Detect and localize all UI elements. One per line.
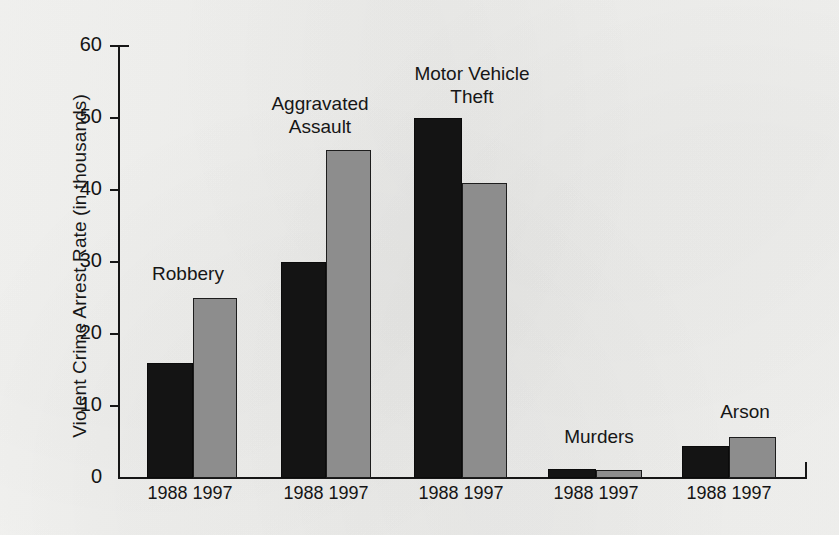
x-tick-labels-arson: 1988 1997 xyxy=(661,483,797,504)
bar-robbery-1997 xyxy=(193,298,237,478)
group-label-motor-vehicle-theft: Motor Vehicle Theft xyxy=(384,62,560,108)
bar-murders-1988 xyxy=(548,469,596,478)
bar-arson-1997 xyxy=(729,437,776,478)
bar-robbery-1988 xyxy=(147,363,193,478)
bar-chart: Violent Crime Arrest Rate (in thousands)… xyxy=(0,0,839,535)
y-tick-label-0: 0 xyxy=(56,465,102,488)
bar-motor-vehicle-theft-1988 xyxy=(414,118,462,478)
bar-aggravated-assault-1988 xyxy=(281,262,326,478)
y-tick-30 xyxy=(110,261,120,263)
y-tick-label-40: 40 xyxy=(56,177,102,200)
x-tick-labels-aggravated-assault: 1988 1997 xyxy=(258,483,394,504)
y-tick-40 xyxy=(110,189,120,191)
group-label-robbery: Robbery xyxy=(128,262,248,285)
x-tick-labels-robbery: 1988 1997 xyxy=(123,483,257,504)
bar-motor-vehicle-theft-1997 xyxy=(462,183,507,478)
x-axis-right-cap xyxy=(805,462,807,479)
y-tick-10 xyxy=(110,405,120,407)
x-tick-labels-murders: 1988 1997 xyxy=(528,483,664,504)
y-tick-label-20: 20 xyxy=(56,321,102,344)
y-tick-50 xyxy=(110,117,120,119)
bar-arson-1988 xyxy=(682,446,729,478)
y-tick-label-10: 10 xyxy=(56,393,102,416)
x-tick-labels-motor-vehicle-theft: 1988 1997 xyxy=(393,483,529,504)
y-tick-label-30: 30 xyxy=(56,249,102,272)
bar-aggravated-assault-1997 xyxy=(326,150,371,478)
y-tick-60 xyxy=(110,45,120,47)
group-label-murders: Murders xyxy=(538,425,660,448)
bar-murders-1997 xyxy=(596,470,642,478)
group-label-aggravated-assault: Aggravated Assault xyxy=(252,92,388,138)
y-tick-label-60: 60 xyxy=(56,33,102,56)
y-tick-20 xyxy=(110,333,120,335)
y-tick-label-50: 50 xyxy=(56,105,102,128)
group-label-arson: Arson xyxy=(690,400,800,423)
